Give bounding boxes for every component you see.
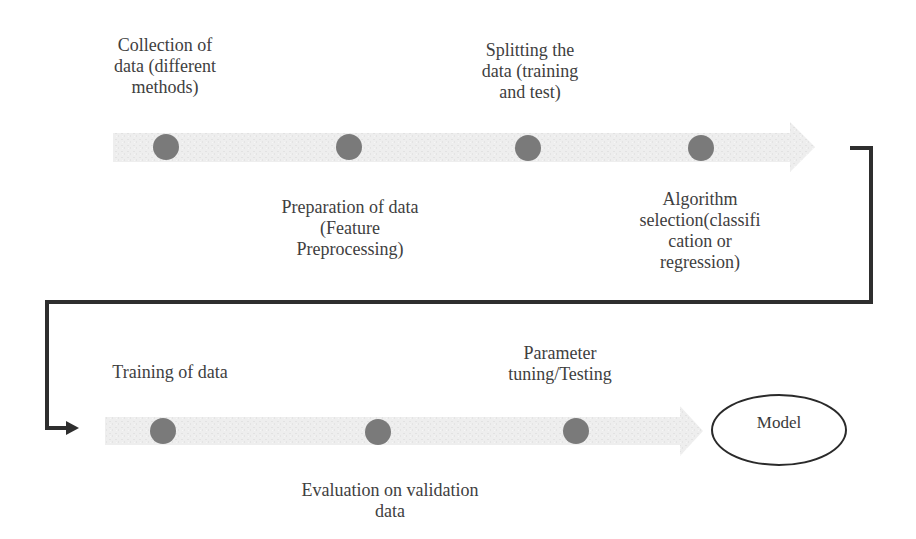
step-dot-splitting	[515, 135, 541, 161]
step-label-tuning: Parameter tuning/Testing	[485, 343, 635, 385]
step-label-algorithm: Algorithm selection(classifi cation or r…	[615, 189, 785, 273]
step-label-preparation: Preparation of data (Feature Preprocessi…	[250, 197, 450, 260]
step-dot-algorithm	[688, 135, 714, 161]
step-label-collection: Collection of data (different methods)	[80, 35, 250, 98]
step-dot-preparation	[336, 134, 362, 160]
step-label-training: Training of data	[80, 362, 260, 383]
step-dot-collection	[153, 134, 179, 160]
step-label-evaluation: Evaluation on validation data	[260, 480, 520, 522]
step-dot-evaluation	[365, 419, 391, 445]
model-label: Model	[757, 413, 801, 433]
step-dot-training	[150, 418, 176, 444]
model-node: Model	[711, 394, 847, 466]
process-band-bottom	[105, 406, 703, 456]
step-dot-tuning	[563, 418, 589, 444]
step-label-splitting: Splitting the data (training and test)	[445, 40, 615, 103]
connector-arrowhead-icon	[66, 421, 79, 435]
